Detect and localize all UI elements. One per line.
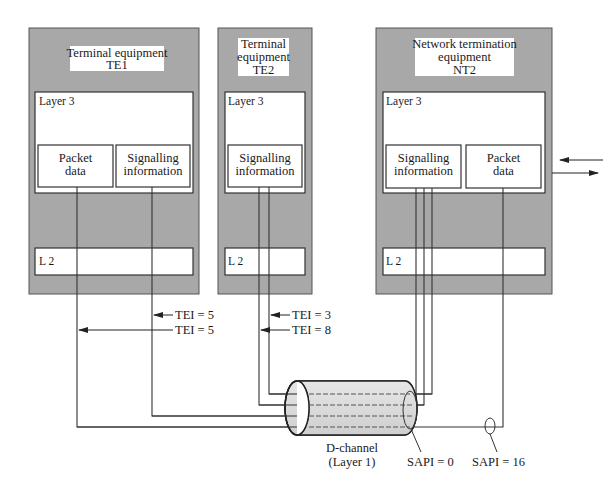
device-te1: Terminal equipment TE1 Layer 3 Packet da…: [29, 28, 199, 294]
nt2-title-line1: Network termination: [412, 37, 517, 51]
nt2-signalling-line1: Signalling: [398, 151, 450, 165]
te1-signalling-line1: Signalling: [127, 151, 179, 165]
nt2-title-line2: equipment: [438, 50, 491, 64]
nt2-packet-line1: Packet: [487, 151, 521, 165]
device-nt2: Network termination equipment NT2 Layer …: [376, 28, 552, 294]
te1-packet-line2: data: [65, 164, 86, 178]
te1-layer3-label: Layer 3: [39, 95, 75, 108]
te1-l2-label: L 2: [39, 255, 54, 267]
cable-label-line2: (Layer 1): [329, 455, 376, 469]
te1-title-line2: TE1: [106, 58, 128, 72]
tei-label-te1-packet: TEI = 5: [175, 323, 214, 337]
te1-l2-box: [35, 248, 193, 275]
sapi16-label: SAPI = 16: [472, 455, 525, 469]
device-te2: Terminal equipment TE2 Layer 3 Signallin…: [218, 28, 312, 294]
te2-layer3-label: Layer 3: [228, 95, 264, 108]
nt2-l2-label: L 2: [386, 255, 401, 267]
d-channel-cable: D-channel (Layer 1): [77, 381, 432, 469]
nt2-l2-box: [383, 248, 545, 275]
sapi0-leader: [411, 429, 421, 452]
sapi16-loop-icon: [485, 418, 495, 434]
te2-title-line2: equipment: [237, 50, 290, 64]
te2-title-line3: TE2: [253, 63, 275, 77]
cable-label-line1: D-channel: [326, 441, 379, 455]
tei-annotations: TEI = 5 TEI = 5 TEI = 3 TEI = 8: [79, 308, 331, 337]
nt2-external-arrows: [552, 160, 603, 173]
sapi16-leader: [490, 434, 497, 452]
nt2-signalling-line2: information: [394, 164, 454, 178]
nt2-layer3-label: Layer 3: [386, 95, 422, 108]
sapi0-label: SAPI = 0: [407, 455, 454, 469]
te2-title-line1: Terminal: [241, 37, 286, 51]
sapi-annotations: SAPI = 0 SAPI = 16: [403, 391, 525, 469]
nt2-title-line3: NT2: [453, 63, 476, 77]
te1-signalling-line2: information: [123, 164, 183, 178]
te1-packet-line1: Packet: [59, 151, 93, 165]
tei-label-te1-sig: TEI = 5: [175, 308, 214, 322]
isdn-d-channel-diagram: Terminal equipment TE1 Layer 3 Packet da…: [0, 0, 611, 490]
tei-label-te2-3: TEI = 3: [292, 308, 331, 322]
te2-signalling-line1: Signalling: [239, 151, 291, 165]
tei-label-te2-8: TEI = 8: [292, 323, 331, 337]
te2-l2-label: L 2: [228, 255, 243, 267]
te2-signalling-line2: information: [235, 164, 295, 178]
nt2-packet-line2: data: [493, 164, 514, 178]
